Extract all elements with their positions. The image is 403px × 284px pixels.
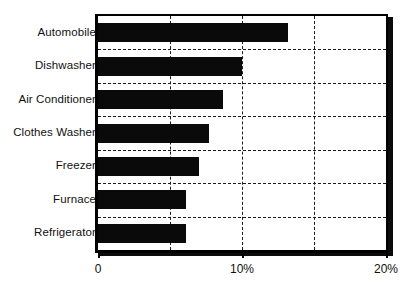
gridline-row-5 [98,183,386,184]
category-label-automobile: Automobile [0,26,96,38]
tick-mark-20pct [386,253,388,258]
tick-label-20pct: 20% [374,262,398,276]
gridline-row-3 [98,116,386,117]
chart-root: AutomobileDishwasherAir ConditionerCloth… [0,0,403,284]
gridline-row-4 [98,150,386,151]
tick-mark-10pct [242,253,244,258]
bar-automobile [98,23,288,42]
bar-dishwasher [98,57,242,76]
gridline-x-10 [242,16,243,250]
category-label-air-conditioner: Air Conditioner [0,93,96,105]
gridline-x-15 [314,16,315,250]
bar-refrigerator [98,224,186,243]
category-label-dishwasher: Dishwasher [0,59,96,71]
tick-label-10pct: 10% [230,262,254,276]
bar-freezer [98,157,199,176]
category-label-furnace: Furnace [0,193,96,205]
plot-area [95,14,388,253]
category-label-clothes-washer: Clothes Washer [0,126,96,138]
bar-furnace [98,190,186,209]
bar-clothes-washer [98,124,209,143]
category-label-freezer: Freezer [0,159,96,171]
plot-shadow-right [388,17,393,256]
tick-mark-0 [98,253,100,258]
gridline-row-2 [98,83,386,84]
gridline-row-1 [98,49,386,50]
category-label-refrigerator: Refrigerator [0,226,96,238]
bar-air-conditioner [98,90,223,109]
gridline-row-6 [98,217,386,218]
tick-label-0: 0 [95,262,102,276]
